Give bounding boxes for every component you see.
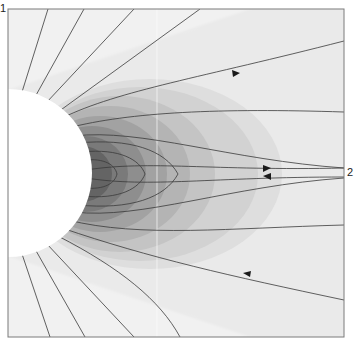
label-2: 2 — [347, 166, 353, 178]
label-1: 1 — [0, 2, 6, 14]
flow-diagram — [0, 0, 356, 341]
